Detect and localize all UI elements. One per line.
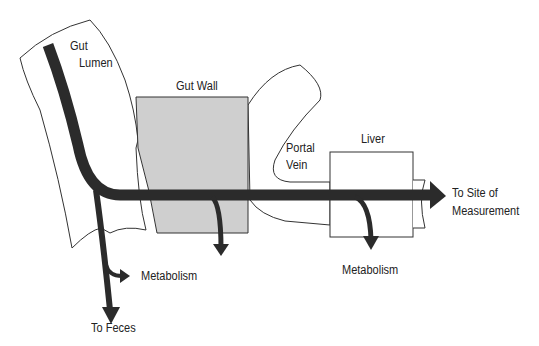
site-label-line1: To Site of bbox=[452, 185, 498, 201]
liver-outlet-vessel bbox=[413, 180, 425, 228]
gut-lumen-label-line1: Gut bbox=[70, 38, 88, 54]
to-feces-label: To Feces bbox=[91, 320, 136, 336]
gut-metabolism-label: Metabolism bbox=[141, 268, 197, 284]
gut-lumen-label-line2: Lumen bbox=[79, 55, 113, 71]
arrowhead-gutwall-metabolism-icon bbox=[213, 244, 229, 256]
liver-label: Liver bbox=[361, 131, 385, 147]
liver-metabolism-label: Metabolism bbox=[342, 262, 398, 278]
portal-vein-label-line1: Portal bbox=[286, 140, 315, 156]
gut-wall-shape bbox=[136, 97, 248, 233]
portal-vein-label-line2: Vein bbox=[286, 157, 307, 173]
gut-wall-label: Gut Wall bbox=[176, 78, 218, 94]
site-label-line2: Measurement bbox=[452, 203, 519, 219]
arrowhead-site-icon bbox=[430, 181, 446, 209]
arrowhead-gut-metabolism-icon bbox=[120, 269, 130, 283]
arrowhead-liver-metabolism-icon bbox=[363, 236, 379, 250]
